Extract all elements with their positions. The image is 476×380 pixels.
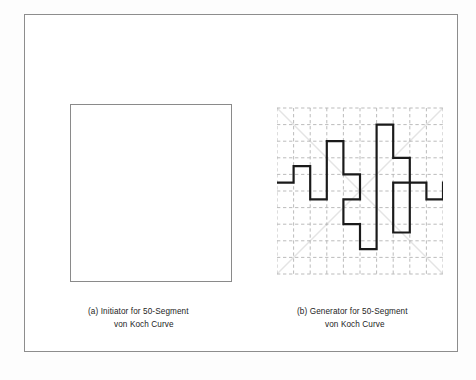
figure-outer-frame: (a) Initiator for 50-Segment von Koch Cu… xyxy=(24,14,458,352)
figure-page: (a) Initiator for 50-Segment von Koch Cu… xyxy=(0,0,476,380)
initiator-square xyxy=(70,104,232,282)
caption-b-line1: (b) Generator for 50-Segment xyxy=(297,307,408,316)
caption-a-line2: von Koch Curve xyxy=(88,318,272,331)
generator-diagram xyxy=(277,103,443,279)
caption-panel-a: (a) Initiator for 50-Segment von Koch Cu… xyxy=(88,305,272,331)
caption-b-line2: von Koch Curve xyxy=(297,318,476,331)
caption-a-line1: (a) Initiator for 50-Segment xyxy=(88,307,189,316)
caption-panel-b: (b) Generator for 50-Segment von Koch Cu… xyxy=(297,305,476,331)
generator-curve-path xyxy=(277,125,443,250)
